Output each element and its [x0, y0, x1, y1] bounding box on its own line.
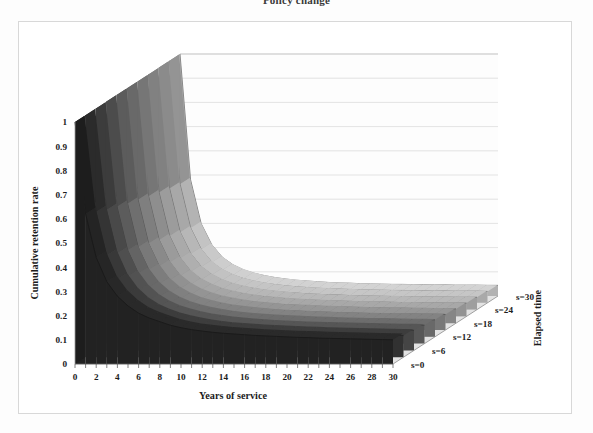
x-tick-label: 24: [325, 372, 335, 382]
x-tick-label: 6: [136, 372, 141, 382]
y-tick-label: 0: [62, 359, 67, 369]
x-tick-label: 12: [198, 372, 208, 382]
z-tick-label: s=12: [453, 332, 471, 342]
x-tick-label: 28: [367, 372, 377, 382]
x-axis-title: Years of service: [199, 390, 267, 401]
y-tick-label: 0.8: [56, 166, 68, 176]
x-tick-label: 14: [219, 372, 229, 382]
z-tick-label: s=24: [495, 305, 513, 315]
z-tick-label: s=0: [411, 360, 425, 370]
z-tick-label: s=6: [432, 346, 446, 356]
x-tick-label: 2: [94, 372, 99, 382]
y-tick-label: 0.7: [56, 190, 68, 200]
y-tick-label: 0.6: [56, 214, 68, 224]
y-tick-label: 0.2: [56, 311, 68, 321]
x-tick-label: 22: [304, 372, 314, 382]
z-axis-title: Elapsed time: [532, 289, 543, 346]
y-tick-label: 0.1: [56, 335, 68, 345]
x-tick-label: 0: [73, 372, 78, 382]
y-tick-label: 0.4: [56, 263, 68, 273]
y-tick-label: 1: [62, 117, 67, 127]
x-tick-label: 18: [261, 372, 271, 382]
y-tick-label: 0.3: [56, 287, 68, 297]
y-tick-label: 0.5: [56, 238, 68, 248]
x-tick-label: 4: [115, 372, 120, 382]
x-tick-label: 30: [388, 372, 398, 382]
x-tick-label: 26: [346, 372, 356, 382]
x-tick-label: 16: [240, 372, 250, 382]
surface-chart-svg: 00.10.20.30.40.50.60.70.80.91Cumulative …: [0, 0, 593, 433]
x-tick-label: 10: [176, 372, 186, 382]
x-tick-label: 20: [282, 372, 292, 382]
y-tick-label: 0.9: [56, 142, 68, 152]
z-tick-label: s=18: [474, 319, 492, 329]
chart-root: Policy change 00.10.20.30.40.50.60.70.80…: [0, 0, 593, 433]
x-tick-label: 8: [158, 372, 163, 382]
y-axis-title: Cumulative retention rate: [29, 186, 40, 299]
